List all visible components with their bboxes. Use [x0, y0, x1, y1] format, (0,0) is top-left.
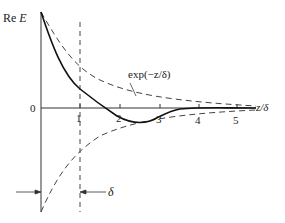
x-tick-label-5: 5	[233, 114, 239, 126]
upper-envelope-curve	[41, 12, 256, 106]
x-tick-label-1: 1	[76, 112, 82, 124]
x-axis-label: z/δ	[255, 101, 269, 113]
delta-label: δ	[108, 185, 114, 199]
zero-label: 0	[30, 102, 36, 114]
x-tick-label-4: 4	[195, 114, 201, 126]
diagram-canvas: Re E 0 exp(−z/δ) z/δ 1 2 3 4 5 δ	[0, 0, 285, 223]
x-tick-label-3: 3	[156, 113, 162, 125]
lower-envelope-curve	[41, 110, 256, 212]
delta-arrows	[16, 190, 106, 194]
envelope-leader-line	[130, 83, 136, 96]
x-tick-label-2: 2	[116, 112, 122, 124]
envelope-label: exp(−z/δ)	[128, 68, 171, 81]
y-axis-label: Re E	[3, 11, 27, 25]
skin-depth-diagram: Re E 0 exp(−z/δ) z/δ 1 2 3 4 5 δ	[0, 0, 285, 223]
